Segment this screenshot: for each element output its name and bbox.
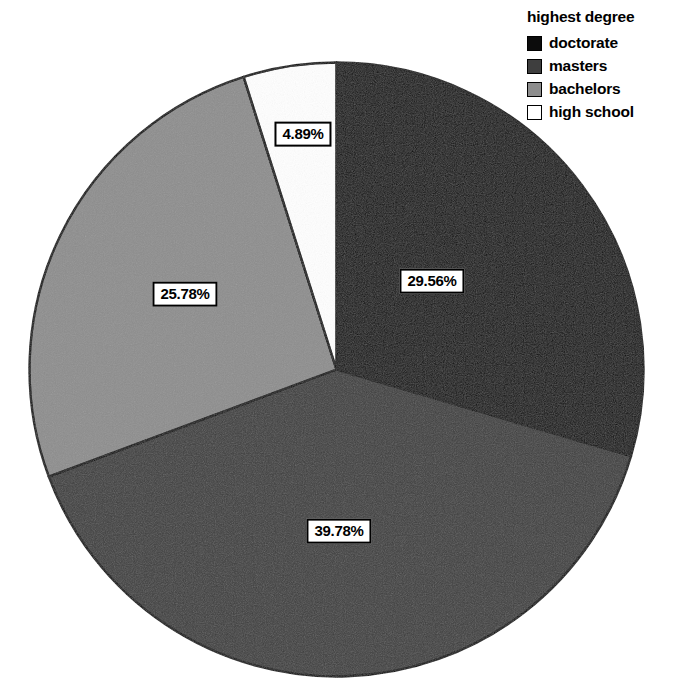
data-label-high-school: 4.89%: [274, 122, 331, 147]
legend-title: highest degree: [527, 8, 691, 26]
legend-items: doctoratemastersbachelorshigh school: [527, 32, 691, 123]
legend-swatch-masters-icon: [527, 59, 542, 74]
data-label-masters: 39.78%: [306, 519, 371, 544]
legend-swatch-bachelors-icon: [527, 82, 542, 97]
legend-label-doctorate: doctorate: [549, 35, 618, 51]
data-label-doctorate: 29.56%: [399, 269, 464, 294]
legend-label-bachelors: bachelors: [549, 81, 620, 97]
data-label-bachelors: 25.78%: [152, 282, 217, 307]
legend-item-masters[interactable]: masters: [527, 55, 691, 77]
legend-item-high-school[interactable]: high school: [527, 101, 691, 123]
legend-label-masters: masters: [549, 58, 607, 74]
legend-swatch-high-school-icon: [527, 105, 542, 120]
legend-item-doctorate[interactable]: doctorate: [527, 32, 691, 54]
legend-label-high-school: high school: [549, 104, 634, 120]
legend-item-bachelors[interactable]: bachelors: [527, 78, 691, 100]
legend-swatch-doctorate-icon: [527, 36, 542, 51]
legend: highest degree doctoratemastersbachelors…: [527, 8, 691, 124]
pie-chart: 29.56% 39.78% 25.78% 4.89% highest degre…: [0, 0, 693, 697]
